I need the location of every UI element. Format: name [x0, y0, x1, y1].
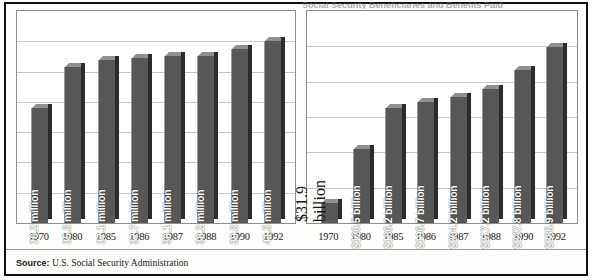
bar-value-label: 35.6 million — [61, 190, 73, 245]
bar-value-label: $120.5 billion — [350, 185, 362, 248]
source-divider — [6, 249, 586, 250]
bar-item: $247.8 billion — [512, 11, 534, 223]
bar-series-right: $31.9 billion$120.5 billion$186.2 billio… — [313, 11, 571, 223]
cut-off-chart-title: Social Security Beneficiaries and Benefi… — [302, 2, 532, 9]
bar-item: $186.2 billion — [383, 11, 405, 223]
bar-value-label: 38.2 million — [194, 190, 206, 245]
bar-item: 38.1 million — [162, 11, 184, 223]
bar: $186.2 billion — [385, 108, 402, 223]
bar-value-label: $247.8 billion — [511, 185, 523, 248]
bar: $285.9 billion — [546, 47, 563, 223]
source-text: U.S. Social Security Administration — [52, 258, 188, 268]
bar: 38.2 million — [197, 56, 214, 223]
bar-value-label: 38.1 million — [161, 190, 173, 245]
bar-item: 39.8 million — [228, 11, 250, 223]
bar-value-label: $204.2 billion — [447, 185, 459, 248]
chart-beneficiaries: 26.2 million35.6 million37.1 million37.7… — [16, 10, 296, 246]
bar: $247.8 billion — [514, 70, 531, 223]
figure-container: Social Security Beneficiaries and Benefi… — [4, 2, 588, 276]
bar-item: 35.6 million — [62, 11, 84, 223]
bar-item: 37.7 million — [128, 11, 150, 223]
bar: 26.2 million — [31, 108, 48, 223]
bar: $217.2 billion — [482, 89, 499, 223]
bar: 37.1 million — [98, 60, 115, 223]
bar-item: 37.1 million — [95, 11, 117, 223]
bar: 38.1 million — [164, 56, 181, 223]
bar: $204.2 billion — [450, 97, 467, 223]
bar: 35.6 million — [64, 67, 81, 223]
bar-item: 38.2 million — [195, 11, 217, 223]
bar-value-label: 26.2 million — [28, 190, 40, 245]
bar-item: $120.5 billion — [350, 11, 372, 223]
bar: 37.7 million — [131, 58, 148, 223]
bar-item: $285.9 billion — [544, 11, 566, 223]
source-label: Source: — [16, 258, 50, 268]
bar-series-left: 26.2 million35.6 million37.1 million37.7… — [23, 11, 289, 223]
bar-item: $31.9 billion — [318, 11, 340, 223]
bar: 41.5 million — [264, 41, 281, 223]
bar-value-label: 39.8 million — [228, 190, 240, 245]
bar-item: 41.5 million — [261, 11, 283, 223]
bar-item: 26.2 million — [29, 11, 51, 223]
x-axis-tick-label: 1970 — [317, 231, 339, 242]
bar-value-label: 41.5 million — [261, 190, 273, 245]
plot-area-right: $31.9 billion$120.5 billion$186.2 billio… — [306, 10, 578, 224]
bar-value-label: $31.9 billion — [293, 180, 329, 222]
bar-value-label: 37.1 million — [95, 190, 107, 245]
bar: $120.5 billion — [353, 149, 370, 223]
bar-item: $196.7 billion — [415, 11, 437, 223]
bar-item: $204.2 billion — [447, 11, 469, 223]
bar-item: $217.2 billion — [479, 11, 501, 223]
bar: $196.7 billion — [417, 102, 434, 223]
bar-value-label: $217.2 billion — [479, 185, 491, 248]
bar-value-label: $285.9 billion — [543, 185, 555, 248]
bar-value-label: $196.7 billion — [414, 185, 426, 248]
bar-value-label: $186.2 billion — [382, 185, 394, 248]
plot-area-left: 26.2 million35.6 million37.1 million37.7… — [16, 10, 296, 224]
chart-benefits-paid: $31.9 billion$120.5 billion$186.2 billio… — [306, 10, 578, 246]
bar: 39.8 million — [231, 49, 248, 223]
bar-value-label: 37.7 million — [128, 190, 140, 245]
source-note: Source: U.S. Social Security Administrat… — [16, 258, 188, 268]
